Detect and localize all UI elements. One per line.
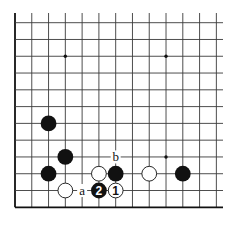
white-stone — [92, 166, 107, 181]
black-stone — [41, 115, 57, 131]
star-point-icon — [164, 155, 167, 158]
white-stone — [58, 183, 73, 198]
point-marker-b: b — [112, 149, 119, 164]
white-stone: 1 — [108, 183, 123, 198]
white-stone-icon — [58, 183, 73, 198]
black-stone — [41, 166, 57, 182]
black-stone — [108, 166, 124, 182]
point-marker-a: a — [79, 183, 85, 198]
white-stone-icon — [92, 166, 107, 181]
black-stone-icon — [41, 166, 57, 182]
black-stone-icon — [108, 166, 124, 182]
black-stone — [57, 149, 73, 165]
move-number-label: 1 — [112, 184, 119, 198]
white-stone — [142, 166, 157, 181]
go-board: ab 21 — [0, 0, 237, 225]
black-stone-icon — [175, 166, 191, 182]
move-number-label: 2 — [96, 184, 103, 198]
black-stone: 2 — [91, 183, 107, 199]
black-stone-icon — [41, 115, 57, 131]
black-stone — [175, 166, 191, 182]
star-point-icon — [164, 55, 167, 58]
black-stone-icon — [57, 149, 73, 165]
star-point-icon — [64, 55, 67, 58]
white-stone-icon — [142, 166, 157, 181]
